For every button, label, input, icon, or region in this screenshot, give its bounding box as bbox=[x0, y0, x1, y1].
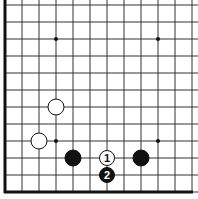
move-number: 2 bbox=[104, 169, 110, 181]
star-point bbox=[156, 139, 160, 143]
star-point bbox=[156, 37, 160, 41]
white-stone bbox=[31, 133, 47, 149]
move-number: 1 bbox=[104, 152, 110, 164]
black-stone bbox=[65, 150, 81, 166]
black-stone bbox=[133, 150, 149, 166]
star-point bbox=[54, 37, 58, 41]
white-stone bbox=[48, 99, 64, 115]
go-board-grid: 12 bbox=[0, 0, 198, 199]
go-board-diagram: 12 bbox=[0, 0, 198, 199]
star-point bbox=[54, 139, 58, 143]
